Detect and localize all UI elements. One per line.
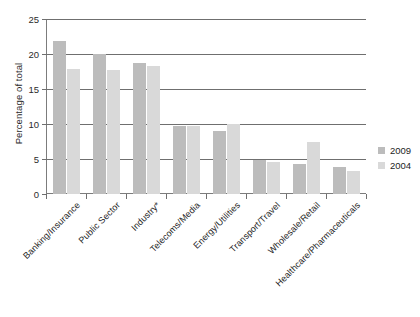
y-tick-label: 25 <box>28 14 39 25</box>
bar-group <box>126 19 166 194</box>
bar-group <box>166 19 206 194</box>
x-tick-mark <box>86 194 87 199</box>
bar-group <box>46 19 86 194</box>
bar-2004 <box>187 126 200 194</box>
y-tick-label: 10 <box>28 119 39 130</box>
bar-2009 <box>53 41 66 194</box>
bar-2009 <box>253 160 266 194</box>
bar-groups <box>46 19 366 194</box>
x-tick-label: Public Sector <box>76 200 121 245</box>
bar-2009 <box>133 63 146 194</box>
bar-group <box>286 19 326 194</box>
y-tick-label: 20 <box>28 49 39 60</box>
bar-group <box>326 19 366 194</box>
x-tick-mark <box>326 194 327 199</box>
y-axis-title: Percentage of total <box>13 24 24 184</box>
bar-2004 <box>107 70 120 194</box>
x-tick-label: Healthcare/Pharmaceuticals <box>273 200 361 288</box>
y-tick-label: 0 <box>34 189 39 200</box>
bar-group <box>206 19 246 194</box>
legend-swatch-icon <box>378 147 385 154</box>
x-tick-mark <box>206 194 207 199</box>
bar-2004 <box>347 171 360 194</box>
chart-legend: 20092004 <box>378 143 411 173</box>
legend-label: 2004 <box>390 160 411 171</box>
legend-item: 2009 <box>378 143 411 158</box>
x-tick-label: Banking/Insurance <box>21 200 82 261</box>
bar-2004 <box>227 124 240 194</box>
bar-group <box>246 19 286 194</box>
x-tick-mark <box>166 194 167 199</box>
x-tick-mark <box>46 194 47 199</box>
bar-2004 <box>147 66 160 194</box>
bar-2009 <box>333 167 346 194</box>
bar-chart: Percentage of total 0510152025 Banking/I… <box>0 0 420 317</box>
legend-item: 2004 <box>378 158 411 173</box>
x-tick-mark <box>246 194 247 199</box>
x-tick-label: Industry* <box>129 200 162 233</box>
bar-2009 <box>293 164 306 194</box>
bar-2009 <box>213 131 226 194</box>
x-tick-mark <box>126 194 127 199</box>
y-tick-label: 5 <box>34 154 39 165</box>
legend-swatch-icon <box>378 162 385 169</box>
x-tick-mark <box>366 194 367 199</box>
plot-area: 0510152025 Banking/InsurancePublic Secto… <box>46 19 366 194</box>
bar-2004 <box>307 142 320 194</box>
bar-2009 <box>173 126 186 194</box>
y-tick-label: 15 <box>28 84 39 95</box>
bar-2009 <box>93 54 106 194</box>
bar-2004 <box>267 162 280 194</box>
legend-label: 2009 <box>390 145 411 156</box>
x-tick-mark <box>286 194 287 199</box>
bar-group <box>86 19 126 194</box>
bar-2004 <box>67 69 80 194</box>
